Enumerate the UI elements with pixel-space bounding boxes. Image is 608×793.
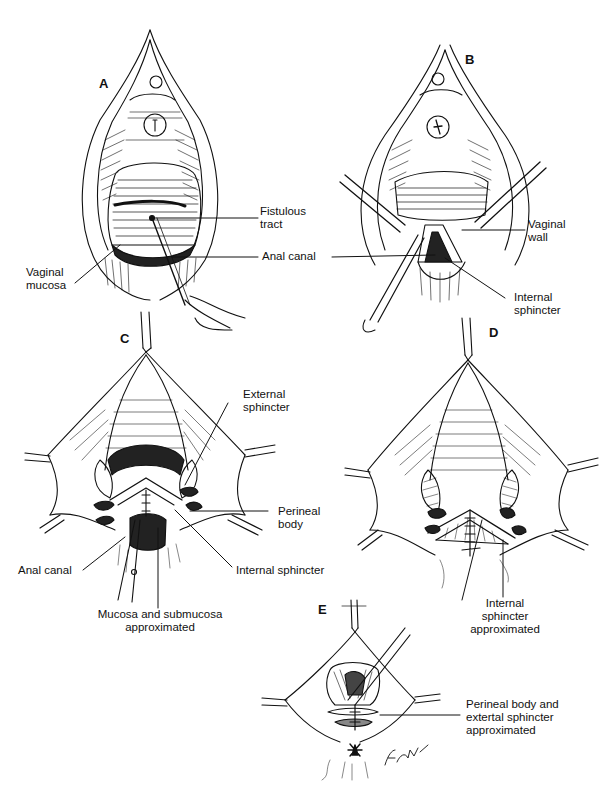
label-internal-sphincter-b: Internal sphincter: [514, 291, 561, 317]
label-perineal-body: Perineal body: [278, 505, 320, 531]
panel-b-drawing: [340, 45, 546, 332]
label-vaginal-wall: Vaginal wall: [528, 218, 566, 244]
label-vaginal-mucosa: Vaginal mucosa: [26, 266, 66, 292]
label-internal-sphincter-approximated: Internal sphincter approximated: [465, 597, 545, 636]
panel-d-leaders: [462, 520, 503, 600]
panel-e-drawing: [262, 600, 440, 780]
panel-letter-a: A: [99, 76, 108, 91]
label-external-sphincter: External sphincter: [243, 388, 290, 414]
label-fistulous-tract: Fistulous tract: [260, 205, 306, 231]
panel-letter-e: E: [318, 602, 327, 617]
line-art: [0, 0, 608, 793]
panel-letter-d: D: [489, 325, 498, 340]
label-internal-sphincter-c: Internal sphincter: [236, 564, 324, 577]
surgical-illustration: A B C D E Fistulous tract Anal canal Vag…: [0, 0, 608, 793]
panel-letter-c: C: [120, 331, 129, 346]
panel-d-drawing: [345, 318, 598, 588]
panel-letter-b: B: [465, 52, 474, 67]
label-perineal-body-external-sphincter: Perineal body and extertal sphincter app…: [466, 698, 559, 737]
label-anal-canal-a: Anal canal: [262, 250, 316, 263]
panel-c-drawing: [25, 312, 275, 602]
label-mucosa-submucosa-approximated: Mucosa and submucosa approximated: [90, 608, 230, 634]
label-anal-canal-c: Anal canal: [18, 564, 72, 577]
panel-a-drawing: [82, 30, 245, 330]
panel-b-leaders: [332, 230, 525, 298]
